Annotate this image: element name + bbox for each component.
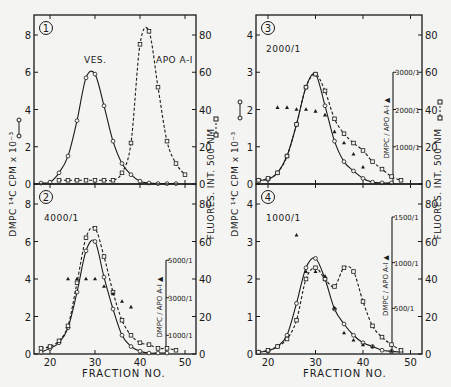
right-axis-label-left-column: FLUORES. INT. 500 NM xyxy=(206,129,216,240)
x-axis-label-right: FRACTION NO. xyxy=(303,368,387,379)
square-point xyxy=(174,348,178,352)
square-point xyxy=(361,300,365,304)
triangle-point xyxy=(314,270,318,274)
annotation-ratio: 2000/1 xyxy=(266,44,301,54)
square-point xyxy=(323,277,327,281)
x-tick-label: 30 xyxy=(89,357,102,368)
x-tick-label: 20 xyxy=(44,357,57,368)
triangle-point xyxy=(295,107,299,111)
left-y-tick-label: 3 xyxy=(247,67,253,78)
square-point xyxy=(323,89,327,93)
circle-point xyxy=(57,171,61,175)
square-point xyxy=(371,160,375,164)
square-point xyxy=(120,171,124,175)
legend-dashed-icon xyxy=(438,116,442,120)
circle-point xyxy=(380,348,384,352)
circle-point xyxy=(333,139,337,143)
circle-point xyxy=(39,350,43,354)
circle-point xyxy=(84,76,88,80)
triangle-point xyxy=(93,277,97,281)
circle-point xyxy=(102,275,106,279)
right-y-tick-label: 40 xyxy=(425,274,438,285)
circle-point xyxy=(102,104,106,108)
panel-frame xyxy=(34,184,196,354)
square-point xyxy=(84,236,88,240)
x-tick-label: 50 xyxy=(179,357,192,368)
left-y-tick-label: 4 xyxy=(25,274,31,285)
left-y-tick-label: 8 xyxy=(25,30,31,41)
right-y-tick-label: 40 xyxy=(425,105,438,116)
square-point xyxy=(93,227,97,231)
triangle-point xyxy=(285,105,289,109)
legend-dashed-icon xyxy=(214,133,218,137)
circle-point xyxy=(323,104,327,108)
annotation-ratio: 4000/1 xyxy=(44,213,79,223)
right-y-tick-label: 0 xyxy=(199,179,205,190)
square-point xyxy=(102,255,106,259)
circle-point xyxy=(138,349,142,353)
right-y-tick-label: 20 xyxy=(425,312,438,323)
square-point xyxy=(285,337,289,341)
cpm-curve xyxy=(259,258,402,352)
left-axis-label-left-column: DMPC ¹⁴C CPM x 10⁻³ xyxy=(8,131,18,236)
circle-point xyxy=(84,249,88,253)
x-tick-label: 40 xyxy=(134,357,147,368)
panel-frame xyxy=(34,15,196,184)
panel-3: 0123402040608032000/11000/12000/13000/1D… xyxy=(247,15,438,190)
triangle-point xyxy=(352,338,356,342)
square-point xyxy=(399,348,403,352)
circle-point xyxy=(111,307,115,311)
square-point xyxy=(57,178,61,182)
square-point xyxy=(129,333,133,337)
triangle-point xyxy=(314,109,318,113)
x-tick-label: 50 xyxy=(404,357,417,368)
square-point xyxy=(314,72,318,76)
inner-tick-label: 3000/1 xyxy=(395,69,420,77)
left-y-tick-label: 2 xyxy=(247,274,253,285)
triangle-point xyxy=(323,113,327,117)
square-point xyxy=(361,149,365,153)
right-y-tick-label: 0 xyxy=(199,349,205,360)
triangle-point xyxy=(304,107,308,111)
circle-point xyxy=(295,301,299,305)
x-tick-label: 40 xyxy=(357,357,370,368)
circle-point xyxy=(147,351,151,355)
panel-number: 1 xyxy=(43,23,49,34)
triangle-point xyxy=(342,141,346,145)
circle-point xyxy=(352,169,356,173)
right-axis-label-right-column: FLUORES. INT. 500 NM xyxy=(433,129,443,240)
square-point xyxy=(333,117,337,121)
left-y-tick-label: 6 xyxy=(25,237,31,248)
inner-axis-label: DMPC / APO A-I ▲ xyxy=(382,254,390,316)
square-point xyxy=(276,171,280,175)
left-y-tick-label: 3 xyxy=(247,237,253,248)
right-y-tick-label: 20 xyxy=(199,312,212,323)
square-point xyxy=(48,345,52,349)
square-point xyxy=(380,335,384,339)
square-point xyxy=(285,154,289,158)
circle-point xyxy=(165,351,169,355)
triangle-point xyxy=(361,165,365,169)
circle-point xyxy=(342,322,346,326)
circle-point xyxy=(352,333,356,337)
inner-axis-label: DMPC / APO A-I ▲ xyxy=(156,276,164,338)
legend-solid-icon xyxy=(17,134,21,138)
panel-number: 3 xyxy=(265,23,271,34)
inner-tick-label: 1000/1 xyxy=(395,144,420,152)
left-y-tick-label: 0 xyxy=(25,349,31,360)
legend-solid-icon xyxy=(238,116,242,120)
square-point xyxy=(156,347,160,351)
left-y-tick-label: 2 xyxy=(25,142,31,153)
square-point xyxy=(93,178,97,182)
square-point xyxy=(380,167,384,171)
square-point xyxy=(120,318,124,322)
triangle-point xyxy=(342,331,346,335)
square-point xyxy=(138,43,142,47)
square-point xyxy=(257,178,261,182)
left-y-tick-label: 1 xyxy=(247,142,253,153)
right-y-tick-label: 40 xyxy=(199,274,212,285)
square-point xyxy=(66,178,70,182)
circle-point xyxy=(314,256,318,260)
right-y-tick-label: 0 xyxy=(425,349,431,360)
inner-tick-label: 5000/1 xyxy=(168,257,193,265)
